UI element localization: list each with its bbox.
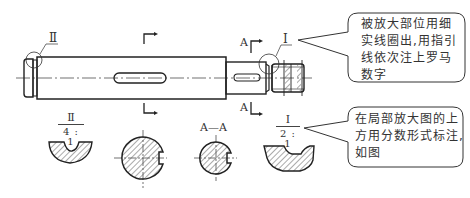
scale-denominator-I: 2 : 1 bbox=[276, 127, 300, 149]
scale-label-II: Ⅱ 4 : 1 bbox=[58, 112, 84, 147]
scale-denominator-II: 4 : 1 bbox=[58, 125, 84, 147]
callout-2-line-3: 如图 bbox=[355, 145, 464, 162]
callout-1-line-3: 线依次注上罗马 bbox=[361, 50, 457, 67]
callout-1-line-2: 实线圈出,用指引 bbox=[361, 33, 457, 50]
label-section-AA: A—A bbox=[200, 122, 227, 133]
label-detail-II: Ⅱ bbox=[49, 32, 57, 44]
callout-1-line-1: 被放大部位用细 bbox=[361, 16, 457, 33]
section-view-AA bbox=[200, 142, 231, 174]
label-section-A-top: A bbox=[240, 37, 248, 48]
callout-2-line-1: 在局部放大图的上 bbox=[355, 111, 464, 128]
callout-1-line-4: 数字 bbox=[361, 67, 457, 84]
callout-2-line-2: 方用分数形式标注, bbox=[355, 128, 464, 145]
scale-label-I: Ⅰ 2 : 1 bbox=[276, 114, 300, 149]
scale-numerator-II: Ⅱ bbox=[58, 112, 84, 125]
scale-numerator-I: Ⅰ bbox=[276, 114, 300, 127]
section-view-keyway bbox=[122, 137, 163, 179]
callout-text-2: 在局部放大图的上 方用分数形式标注, 如图 bbox=[355, 111, 464, 162]
keyway-right bbox=[234, 74, 260, 81]
label-section-A-bottom: A bbox=[240, 102, 248, 113]
enlarged-view-I bbox=[264, 146, 314, 171]
label-detail-I: Ⅰ bbox=[283, 33, 288, 45]
callout-text-1: 被放大部位用细 实线圈出,用指引 线依次注上罗马 数字 bbox=[361, 16, 457, 84]
